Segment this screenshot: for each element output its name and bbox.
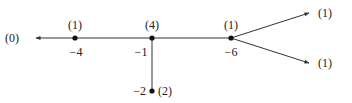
node-weight: (4) [145,18,159,32]
node-weight: (1) [224,18,238,32]
node-value: −1 [135,45,148,59]
node-weight: (2) [158,84,172,98]
ray-weight-upper-right: (1) [318,6,332,20]
node-dot [149,35,154,40]
node-value: −2 [133,84,146,98]
edge-upper-right-ray [231,13,309,38]
node-dot [72,35,77,40]
weighted-graph-diagram: (0) (1) (1) (1) (4) (1) −4 −1 −6 −2 (2) [0,0,352,103]
ray-weight-left: (0) [5,31,19,45]
edge-lower-right-ray [231,38,309,63]
ray-weight-lower-right: (1) [318,56,332,70]
node-value: −6 [225,45,238,59]
node-weight: (1) [68,18,82,32]
node-dot [149,88,154,93]
node-value: −4 [70,45,83,59]
node-dot [228,35,233,40]
